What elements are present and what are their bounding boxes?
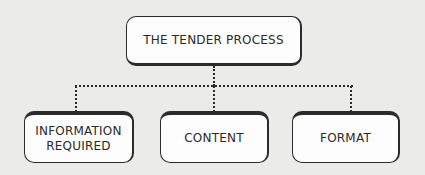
child-node-format: FORMAT bbox=[292, 111, 400, 163]
child-node-label-line1: INFORMATION bbox=[35, 124, 121, 139]
child-node-label: FORMAT bbox=[320, 131, 371, 146]
child-node-information-required: INFORMATION REQUIRED bbox=[24, 111, 134, 163]
connector-root-down bbox=[213, 66, 215, 86]
root-node-box: THE TENDER PROCESS bbox=[126, 16, 302, 66]
connector-to-content bbox=[213, 86, 215, 112]
connector-to-format bbox=[350, 86, 352, 112]
root-node-label: THE TENDER PROCESS bbox=[143, 33, 283, 48]
child-node-label: CONTENT bbox=[184, 131, 243, 146]
connector-to-information-required bbox=[75, 86, 77, 112]
child-node-label-line2: REQUIRED bbox=[35, 139, 121, 154]
child-node-content: CONTENT bbox=[160, 111, 269, 163]
